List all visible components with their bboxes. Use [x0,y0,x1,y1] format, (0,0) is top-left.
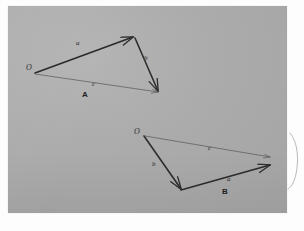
triangle-a-vector-b-label: b [144,55,148,62]
triangle-b-vector-a-label: a [227,176,231,183]
triangle-b-vector-c-label: c [208,145,211,152]
triangle-a-caption: A [82,91,88,99]
vector-b-arrow-b [144,136,181,189]
vector-a-arrow-b [135,38,158,91]
pen-stroke-margin [288,133,298,189]
vector-a-arrow-c [35,74,158,92]
vector-a-arrow-a [35,37,133,73]
triangle-b-caption: B [222,188,228,196]
diagram-ink-layer [0,0,304,231]
triangle-a-origin-label: O [26,64,32,72]
vector-triangle-b [144,136,270,190]
triangle-a-vector-c-label: c [92,81,95,88]
triangle-b-origin-label: O [134,128,140,136]
figure-root: O a b c A O b a c B [0,0,304,231]
triangle-a-vector-a-label: a [76,40,80,47]
triangle-b-vector-b-label: b [152,161,156,168]
vector-triangle-a [35,37,158,92]
